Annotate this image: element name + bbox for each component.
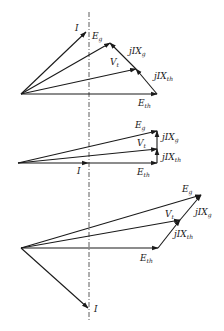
label-Vt: Vt (165, 209, 175, 220)
label-jIXth: jIXth (160, 152, 181, 163)
panel-bottom: I Eg Vt jIXg jIXth Eth (21, 184, 212, 314)
panel-middle: I Eg Vt jIXg jIXth Eth (18, 120, 181, 178)
label-Eth: Eth (139, 253, 153, 264)
label-jIXg: jIXg (160, 132, 179, 144)
vector-I (21, 32, 86, 94)
vector-I (21, 248, 88, 308)
label-I: I (74, 23, 79, 33)
phasor-diagram: I Eg Vt jIXg jIXth Eth I Eg Vt jIXg jIXt… (0, 0, 224, 331)
label-jIXg: jIXg (127, 46, 146, 58)
label-Eth: Eth (137, 98, 151, 109)
label-Eg: Eg (181, 184, 193, 196)
label-Eg: Eg (91, 31, 103, 43)
label-Eth: Eth (136, 167, 150, 178)
label-Vt: Vt (137, 138, 147, 149)
label-jIXth: jIXth (152, 71, 173, 82)
panel-top: I Eg Vt jIXg jIXth Eth (21, 23, 173, 109)
vector-Eg (21, 43, 110, 94)
label-Vt: Vt (110, 57, 120, 68)
label-I: I (93, 304, 98, 314)
label-jIXth: jIXth (172, 229, 193, 240)
label-Eg: Eg (134, 120, 146, 132)
label-I: I (76, 166, 81, 176)
vector-Vt (18, 149, 157, 163)
vector-Vt (21, 69, 136, 94)
label-jIXg: jIXg (193, 207, 212, 219)
